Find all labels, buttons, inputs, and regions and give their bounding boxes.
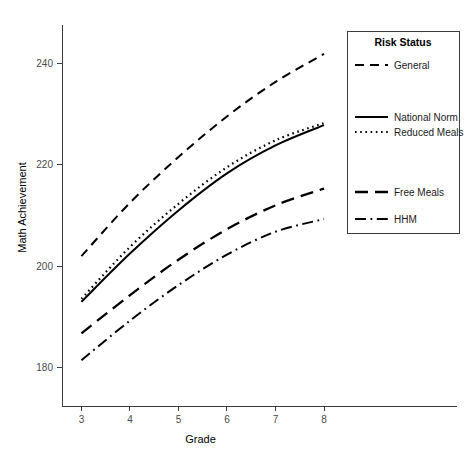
- series-line-reduced-meals: [81, 123, 324, 299]
- y-axis-tick-labels: 180200220240: [36, 58, 53, 374]
- y-axis-title: Math Achievement: [16, 162, 28, 253]
- legend-item-label: Reduced Meals: [394, 127, 463, 138]
- x-tick-label: 8: [321, 414, 327, 425]
- legend-item-label: General: [394, 60, 430, 71]
- legend-item-general[interactable]: General: [355, 60, 430, 71]
- legend-item-label: HHM: [394, 214, 417, 225]
- legend-item-reduced-meals[interactable]: Reduced Meals: [355, 127, 463, 138]
- legend-item-free-meals[interactable]: Free Meals: [355, 187, 444, 198]
- x-tick-label: 6: [224, 414, 230, 425]
- ticks-group: [57, 63, 324, 411]
- x-tick-label: 4: [127, 414, 133, 425]
- x-tick-label: 7: [273, 414, 279, 425]
- y-tick-label: 220: [36, 159, 53, 170]
- x-tick-label: 5: [176, 414, 182, 425]
- data-series-group: [81, 54, 324, 360]
- legend-item-national-norm[interactable]: National Norm: [355, 112, 458, 123]
- series-line-hhm: [81, 219, 324, 360]
- legend-title: Risk Status: [374, 36, 431, 48]
- series-line-national-norm: [81, 125, 324, 302]
- x-tick-label: 3: [79, 414, 85, 425]
- math-achievement-line-chart: 180200220240 345678 Grade Math Achieveme…: [0, 0, 466, 461]
- y-tick-label: 180: [36, 362, 53, 373]
- legend-item-label: Free Meals: [394, 187, 444, 198]
- series-line-general: [81, 54, 324, 256]
- legend-item-label: National Norm: [394, 112, 458, 123]
- x-axis-title: Grade: [185, 433, 216, 445]
- x-axis-tick-labels: 345678: [79, 414, 328, 425]
- series-line-free-meals: [81, 189, 324, 334]
- y-tick-label: 240: [36, 58, 53, 69]
- y-tick-label: 200: [36, 261, 53, 272]
- chart-canvas: 180200220240 345678 Grade Math Achieveme…: [0, 0, 466, 461]
- legend-item-hhm[interactable]: HHM: [355, 214, 417, 225]
- legend: Risk StatusGeneralNational NormReduced M…: [347, 31, 463, 233]
